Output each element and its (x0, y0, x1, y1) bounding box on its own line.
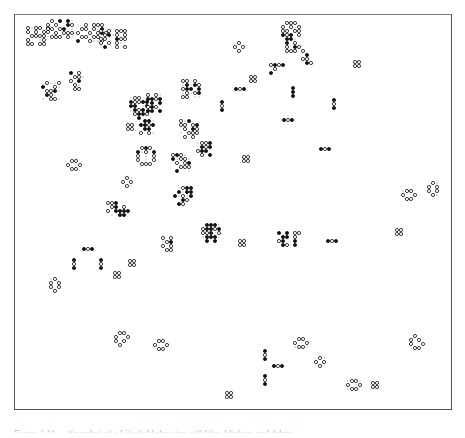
dead-cell-marker (26, 42, 29, 45)
live-cell (115, 37, 118, 40)
live-cell (137, 112, 140, 115)
dead-cell-marker (144, 150, 147, 153)
live-cell (99, 258, 102, 261)
neighbor-dot (295, 347, 296, 348)
dead-cell-marker (58, 27, 61, 30)
dead-cell-marker (242, 239, 245, 242)
live-cell (175, 169, 178, 172)
neighbor-dot (437, 183, 438, 184)
dead-cell-marker (96, 23, 99, 26)
dead-cell-marker (92, 27, 95, 30)
live-cell (285, 235, 288, 238)
dead-cell-marker (66, 163, 69, 166)
live-cell (158, 101, 161, 104)
neighbor-dot (403, 191, 404, 192)
dead-cell-marker (413, 346, 416, 349)
dead-cell-marker (409, 189, 412, 192)
dead-cell-marker (297, 29, 300, 32)
dead-cell-marker (73, 87, 76, 90)
dead-cell-marker (152, 154, 155, 157)
live-cell (242, 87, 245, 90)
dead-cell-marker (205, 231, 208, 234)
live-cell (234, 87, 237, 90)
live-cell (293, 239, 296, 242)
pattern-cluster-left-b (41, 81, 60, 100)
neighbor-dot (146, 160, 147, 161)
dead-cell-marker (74, 159, 77, 162)
live-cell (332, 106, 335, 109)
dead-cell-marker (130, 123, 133, 126)
dead-cell-marker (122, 205, 125, 208)
live-cell (58, 19, 61, 22)
dead-cell-marker (77, 71, 80, 74)
dead-cell-marker (263, 378, 266, 381)
dead-cell-marker (100, 23, 103, 26)
neighbor-dot (189, 171, 190, 172)
dead-cell-marker (314, 360, 317, 363)
pattern-ship-right (409, 334, 424, 349)
dead-cell-marker (293, 41, 296, 44)
pattern-blinker-h-d (319, 147, 330, 150)
live-cell (114, 205, 117, 208)
live-cell (293, 45, 296, 48)
neighbor-dot (113, 35, 114, 36)
dead-cell-marker (128, 259, 131, 262)
dead-cell-marker (121, 180, 124, 183)
live-cell (187, 161, 190, 164)
neighbor-dot (101, 47, 102, 48)
neighbor-dot (191, 85, 192, 86)
dead-cell-marker (86, 247, 89, 250)
dead-cell-marker (191, 135, 194, 138)
dead-cell-marker (42, 38, 45, 41)
dead-cell-marker (53, 289, 56, 292)
live-cell (263, 382, 266, 385)
neighbor-dot (79, 85, 80, 86)
dead-cell-marker (34, 34, 37, 37)
dead-cell-marker (233, 45, 236, 48)
dead-cell-marker (148, 146, 151, 149)
live-cell (169, 240, 172, 243)
live-cell (327, 147, 330, 150)
pattern-cluster-low-d (161, 236, 172, 251)
neighbor-dot (76, 165, 77, 166)
pattern-blinker-v-e (263, 349, 266, 360)
dead-cell-marker (45, 89, 48, 92)
dead-cell-marker (185, 95, 188, 98)
live-cell (319, 147, 322, 150)
dead-cell-marker (253, 79, 256, 82)
dead-cell-marker (242, 159, 245, 162)
dead-cell-marker (107, 29, 110, 32)
dead-cell-marker (115, 33, 118, 36)
dead-cell-marker (225, 395, 228, 398)
dead-cell-marker (346, 383, 349, 386)
dead-cell-marker (285, 49, 288, 52)
dead-cell-marker (191, 123, 194, 126)
dead-cell-marker (115, 41, 118, 44)
dead-cell-marker (30, 42, 33, 45)
dead-cell-marker (147, 131, 150, 134)
live-cell (280, 364, 283, 367)
dead-cell-marker (305, 341, 308, 344)
dead-cell-marker (70, 31, 73, 34)
dead-cell-marker (229, 395, 232, 398)
pattern-loaf-a (121, 176, 132, 187)
dead-cell-marker (435, 189, 438, 192)
dead-cell-marker (54, 23, 57, 26)
pattern-cluster-mid-a (179, 119, 198, 138)
live-cell (118, 209, 121, 212)
dead-cell-marker (289, 21, 292, 24)
pattern-ring-left (136, 146, 155, 165)
pattern-beehive-a (66, 159, 81, 170)
dead-cell-marker (57, 81, 60, 84)
dead-cell-marker (220, 104, 223, 107)
dead-cell-marker (427, 189, 430, 192)
neighbor-dot (55, 95, 56, 96)
dead-cell-marker (133, 96, 136, 99)
neighbor-dot (51, 279, 52, 280)
pattern-pond-low (346, 379, 361, 390)
dead-cell-marker (49, 97, 52, 100)
neighbor-dot (98, 41, 99, 42)
live-cell (143, 123, 146, 126)
dead-cell-marker (117, 275, 120, 278)
dead-cell-marker (181, 194, 184, 197)
